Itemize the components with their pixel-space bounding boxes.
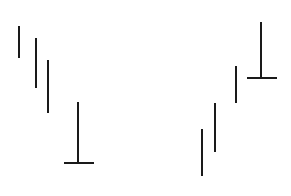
canvas-background bbox=[0, 0, 291, 196]
line-strokes-figure bbox=[0, 0, 291, 196]
figure-canvas bbox=[0, 0, 291, 196]
